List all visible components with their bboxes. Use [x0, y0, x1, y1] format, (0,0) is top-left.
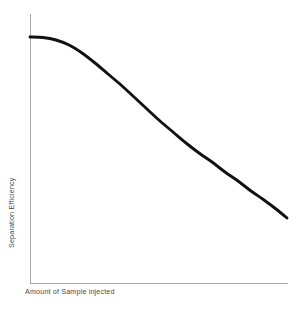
- chart-container: Amount of Sample injected Separation Eff…: [0, 0, 303, 313]
- data-curve-separation-efficiency: [30, 37, 287, 218]
- y-axis-label: Separation Efficiency: [7, 168, 17, 248]
- plot-area: [0, 0, 303, 313]
- x-axis-label: Amount of Sample injected: [25, 287, 115, 297]
